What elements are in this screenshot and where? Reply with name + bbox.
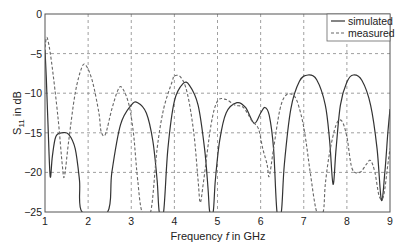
x-tick-label: 2 [85,215,91,227]
y-tick-label: −25 [24,206,42,218]
x-tick-label: 8 [344,215,350,227]
y-tick-label: −15 [24,127,42,139]
y-axis-ticks: 0−5−10−15−20−25 [24,8,42,218]
legend: simulated measured [327,14,395,41]
x-tick-label: 3 [128,215,134,227]
y-tick-label: −20 [24,166,42,178]
x-tick-label: 4 [171,215,177,227]
x-tick-label: 1 [42,215,48,227]
x-tick-label: 6 [258,215,264,227]
x-tick-label: 9 [387,215,393,227]
grid-lines [45,14,390,212]
y-tick-label: −10 [24,87,42,99]
x-tick-label: 7 [301,215,307,227]
legend-simulated-label: simulated [348,15,393,27]
x-axis-ticks: 123456789 [42,215,393,227]
y-tick-label: 0 [36,8,42,20]
y-tick-label: −5 [30,48,42,60]
x-tick-label: 5 [215,215,221,227]
x-axis-label: Frequency f in GHz [171,230,266,242]
s11-chart: 123456789 0−5−10−15−20−25 Frequency f in… [0,0,403,249]
legend-measured-label: measured [348,27,395,39]
